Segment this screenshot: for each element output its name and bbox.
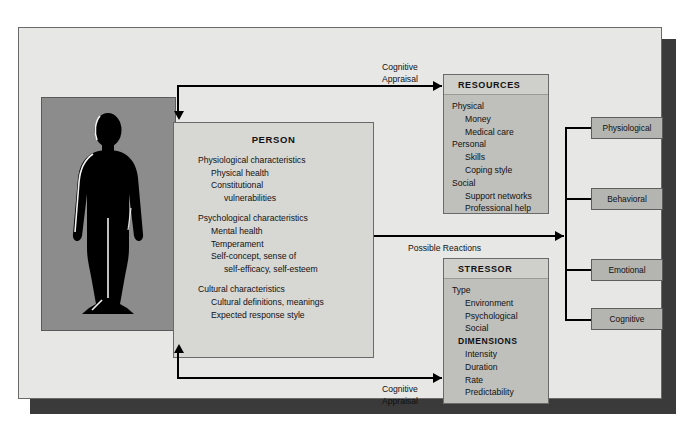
outcome-trunk-vertical [565,127,567,321]
person-body: Physiological characteristics Physical h… [174,154,373,321]
person-group-heading: Psychological characteristics [198,212,373,225]
outcome-label: Behavioral [607,194,647,204]
resources-item: Money [452,113,548,126]
resources-item: Coping style [452,164,548,177]
outcome-branch-behavioral [565,198,593,200]
outcome-label: Emotional [608,265,645,275]
diagram-canvas: PERSON Physiological characteristics Phy… [0,0,693,427]
edge-top-vertical-left [177,85,179,111]
stressor-item: Rate [452,374,548,387]
person-title: PERSON [174,134,373,145]
stressor-item: Duration [452,361,548,374]
edge-label-possible-reactions: Possible Reactions [408,242,481,254]
resources-item: Skills [452,151,548,164]
outcome-box-cognitive[interactable]: Cognitive [591,308,663,330]
stressor-group-heading: DIMENSIONS [452,335,548,348]
resources-group-heading: Social [452,177,548,190]
outcome-box-emotional[interactable]: Emotional [591,259,663,281]
edge-label-cognitive-appraisal-top: Cognitive Appraisal [382,61,418,85]
person-group-cultural: Cultural characteristics Cultural defini… [198,283,373,321]
resources-title: RESOURCES [444,75,548,95]
person-group-physiological: Physiological characteristics Physical h… [198,154,373,204]
stressor-title: STRESSOR [444,259,548,279]
person-group-heading: Cultural characteristics [198,283,373,296]
stressor-item: Psychological [452,310,548,323]
outcome-label: Cognitive [610,314,645,324]
diagram-panel: PERSON Physiological characteristics Phy… [18,27,662,399]
resources-item: Support networks [452,190,548,203]
edge-label-cognitive-appraisal-bottom: Cognitive Appraisal [382,383,418,407]
edge-bottom-vertical-left [177,353,179,379]
stressor-body: Type Environment Psychological Social DI… [444,279,548,404]
edge-middle-horizontal [374,235,564,237]
person-item: Constitutional [198,179,373,192]
person-item: Expected response style [198,309,373,322]
edge-bottom-horizontal [177,377,442,379]
edge-top-arrowhead-down [174,111,184,120]
edge-bottom-arrowhead-right [433,373,442,383]
edge-middle-arrowhead-right [555,231,564,241]
stressor-item: Social [452,322,548,335]
stressor-group-heading: Type [452,284,548,297]
person-item: Temperament [198,238,373,251]
person-box: PERSON Physiological characteristics Phy… [173,122,374,358]
person-item: vulnerabilities [198,192,373,205]
person-item: self-efficacy, self-esteem [198,263,373,276]
resources-group-heading: Personal [452,138,548,151]
outcome-box-physiological[interactable]: Physiological [591,117,663,139]
outcome-branch-cognitive [565,319,593,321]
person-group-psychological: Psychological characteristics Mental hea… [198,212,373,275]
resources-item: Professional help [452,202,548,215]
stressor-item: Intensity [452,348,548,361]
resources-item: Medical care [452,126,548,139]
stressor-box: STRESSOR Type Environment Psychological … [443,258,549,404]
human-figure-panel [41,97,176,331]
outcome-branch-emotional [565,269,593,271]
person-item: Cultural definitions, meanings [198,296,373,309]
stressor-item: Predictability [452,386,548,399]
person-group-heading: Physiological characteristics [198,154,373,167]
person-item: Mental health [198,225,373,238]
human-figure-silhouette [42,98,175,330]
person-item: Self-concept, sense of [198,250,373,263]
resources-box: RESOURCES Physical Money Medical care Pe… [443,74,549,214]
stressor-item: Environment [452,297,548,310]
outcome-branch-physiological [565,127,593,129]
resources-body: Physical Money Medical care Personal Ski… [444,95,548,220]
outcome-box-behavioral[interactable]: Behavioral [591,188,663,210]
person-item: Physical health [198,167,373,180]
edge-bottom-arrowhead-up [174,344,184,353]
edge-top-arrowhead-right [433,81,442,91]
edge-top-horizontal [177,85,442,87]
resources-group-heading: Physical [452,100,548,113]
outcome-label: Physiological [603,123,652,133]
